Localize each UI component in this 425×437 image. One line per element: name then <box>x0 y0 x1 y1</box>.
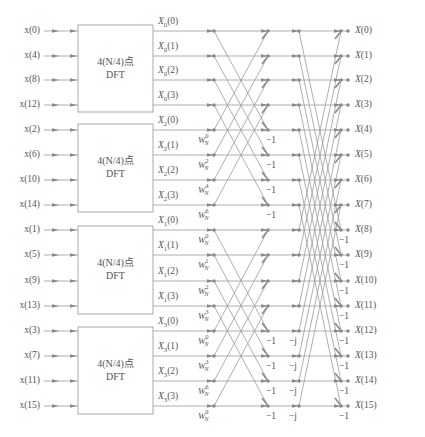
arrow-icon <box>70 153 77 157</box>
output-label: X(1) <box>354 50 372 61</box>
dft-block-subtitle: DFT <box>106 168 125 179</box>
node-dot <box>212 203 216 207</box>
node-dot <box>266 354 270 358</box>
block-output-label: X3(3) <box>157 391 178 402</box>
node-dot <box>212 128 216 132</box>
node-dot <box>266 103 270 107</box>
node-dot <box>266 228 270 232</box>
input-label: x(4) <box>24 50 40 61</box>
node-dot <box>339 279 343 283</box>
twiddle-factor-label: W6N <box>198 384 210 397</box>
twiddle-factor-label: W3N <box>198 359 210 372</box>
arrow-icon <box>52 279 59 283</box>
twiddle-factor-label: W4N <box>198 183 210 196</box>
arrow-icon <box>52 128 59 132</box>
node-dot <box>266 153 270 157</box>
node-dot <box>339 329 343 333</box>
input-label: x(3) <box>24 325 40 336</box>
node-dot <box>346 203 350 207</box>
output-label: X(2) <box>354 74 372 85</box>
arrow-icon <box>52 203 59 207</box>
node-dot <box>297 404 301 408</box>
arrow-icon <box>70 329 77 333</box>
arrow-icon <box>70 379 77 383</box>
output-label: X(3) <box>354 99 372 110</box>
dft-block-title: 4(N/4)点 <box>97 358 134 370</box>
output-label: X(6) <box>354 174 372 185</box>
node-dot <box>212 78 216 82</box>
node-dot <box>346 228 350 232</box>
node-dot <box>339 54 343 58</box>
node-dot <box>212 379 216 383</box>
multiplier-label: −1 <box>339 336 349 346</box>
block-output-label: X1(1) <box>157 240 178 251</box>
output-label: X(9) <box>354 249 372 260</box>
arrow-icon <box>70 103 77 107</box>
node-dot <box>297 354 301 358</box>
node-dot <box>339 178 343 182</box>
output-label: X(4) <box>354 124 372 135</box>
multiplier-label: −j <box>289 361 297 371</box>
output-label: X(12) <box>354 325 377 336</box>
node-dot <box>346 379 350 383</box>
node-dot <box>339 203 343 207</box>
dft-block-subtitle: DFT <box>106 371 125 382</box>
multiplier-label: −1 <box>266 361 276 371</box>
node-dot <box>212 354 216 358</box>
block-output-label: X1(3) <box>157 291 178 302</box>
multiplier-label: −1 <box>339 386 349 396</box>
arrow-icon <box>52 329 59 333</box>
node-dot <box>297 279 301 283</box>
twiddle-factor-label: W0N <box>198 334 210 347</box>
twiddle-factor-label: W6N <box>198 208 210 221</box>
arrow-icon <box>70 178 77 182</box>
input-label: x(2) <box>24 124 40 135</box>
multiplier-label: −1 <box>266 210 276 220</box>
dft-block-subtitle: DFT <box>106 69 125 80</box>
node-dot <box>266 178 270 182</box>
node-dot <box>339 153 343 157</box>
output-label: X(14) <box>354 375 377 386</box>
node-dot <box>266 379 270 383</box>
node-dot <box>346 354 350 358</box>
multiplier-label: −1 <box>266 135 276 145</box>
node-dot <box>297 78 301 82</box>
input-label: x(10) <box>19 174 40 185</box>
block-output-label: X0(2) <box>157 65 178 76</box>
multiplier-label: −1 <box>266 336 276 346</box>
block-output-label: X0(1) <box>157 41 178 52</box>
node-dot <box>297 103 301 107</box>
block-output-label: X1(2) <box>157 266 178 277</box>
twiddle-factor-label: W3N <box>198 309 210 322</box>
arrow-icon <box>52 54 59 58</box>
node-dot <box>266 78 270 82</box>
dft-block-subtitle: DFT <box>106 270 125 281</box>
block-output-label: X1(0) <box>157 215 178 226</box>
multiplier-label: −1 <box>339 235 349 245</box>
node-dot <box>339 78 343 82</box>
dft-block-title: 4(N/4)点 <box>97 56 134 68</box>
node-dot <box>266 203 270 207</box>
output-label: X(7) <box>354 199 372 210</box>
node-dot <box>266 253 270 257</box>
multiplier-label: −1 <box>339 411 349 421</box>
input-label: x(6) <box>24 149 40 160</box>
node-dot <box>346 304 350 308</box>
multiplier-label: −1 <box>339 260 349 270</box>
multiplier-label: −1 <box>339 361 349 371</box>
node-dot <box>346 103 350 107</box>
node-dot <box>212 253 216 257</box>
arrow-icon <box>70 29 77 33</box>
node-dot <box>297 304 301 308</box>
arrow-icon <box>52 103 59 107</box>
node-dot <box>266 304 270 308</box>
block-output-label: X2(1) <box>157 140 178 151</box>
node-dot <box>266 128 270 132</box>
twiddle-factor-label: W1N <box>198 258 210 271</box>
multiplier-label: −1 <box>266 160 276 170</box>
multiplier-label: −j <box>289 386 297 396</box>
fft-flow-diagram: x(0)x(4)x(8)x(12)x(2)x(6)x(10)x(14)x(1)x… <box>0 0 425 437</box>
block-output-label: X2(3) <box>157 190 178 201</box>
node-dot <box>266 329 270 333</box>
node-dot <box>297 228 301 232</box>
